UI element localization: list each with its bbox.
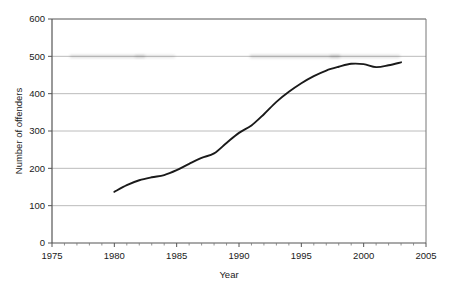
chart-figure: 1975198019851990199520002005 01002003004… <box>0 0 450 294</box>
scan-smudge-2 <box>250 55 340 57</box>
line-chart: 1975198019851990199520002005 01002003004… <box>0 0 450 294</box>
x-tick-label-2005: 2005 <box>415 250 436 261</box>
scan-smudge-0 <box>70 55 145 57</box>
x-tick-label-1990: 1990 <box>228 250 249 261</box>
y-tick-label-400: 400 <box>29 88 45 99</box>
y-axis-title: Number of offenders <box>13 88 24 175</box>
scan-smudge-1 <box>135 55 175 57</box>
y-tick-label-300: 300 <box>29 125 45 136</box>
x-tick-label-1975: 1975 <box>41 250 62 261</box>
x-axis-title: Year <box>219 269 238 280</box>
y-tick-label-0: 0 <box>40 237 45 248</box>
y-tick-label-200: 200 <box>29 163 45 174</box>
scan-smudge-3 <box>330 55 400 57</box>
y-tick-label-100: 100 <box>29 200 45 211</box>
x-tick-label-1995: 1995 <box>291 250 312 261</box>
x-tick-label-1985: 1985 <box>166 250 187 261</box>
x-tick-label-1980: 1980 <box>104 250 125 261</box>
x-tick-label-2000: 2000 <box>353 250 374 261</box>
y-tick-label-500: 500 <box>29 51 45 62</box>
y-tick-label-600: 600 <box>29 13 45 24</box>
chart-background <box>0 0 450 294</box>
